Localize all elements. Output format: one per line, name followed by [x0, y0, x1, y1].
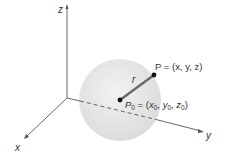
- sphere-diagram: z x y r P = (x, y, z) P0 = (x0, y0, z0): [0, 0, 225, 159]
- surface-point-label: P = (x, y, z): [155, 61, 202, 72]
- y-axis-solid-start: [67, 98, 80, 101]
- x-axis: [26, 98, 67, 137]
- y-axis-solid-end: [158, 120, 201, 131]
- z-axis-label: z: [57, 4, 63, 15]
- z-arrow-icon: [66, 4, 69, 9]
- y-arrow-icon: [198, 129, 204, 133]
- x-axis-label: x: [14, 142, 21, 153]
- surface-point: [152, 73, 157, 78]
- center-point: [118, 98, 123, 103]
- y-axis-label: y: [205, 130, 212, 141]
- center-point-label: P0 = (x0, y0, z0): [125, 99, 188, 111]
